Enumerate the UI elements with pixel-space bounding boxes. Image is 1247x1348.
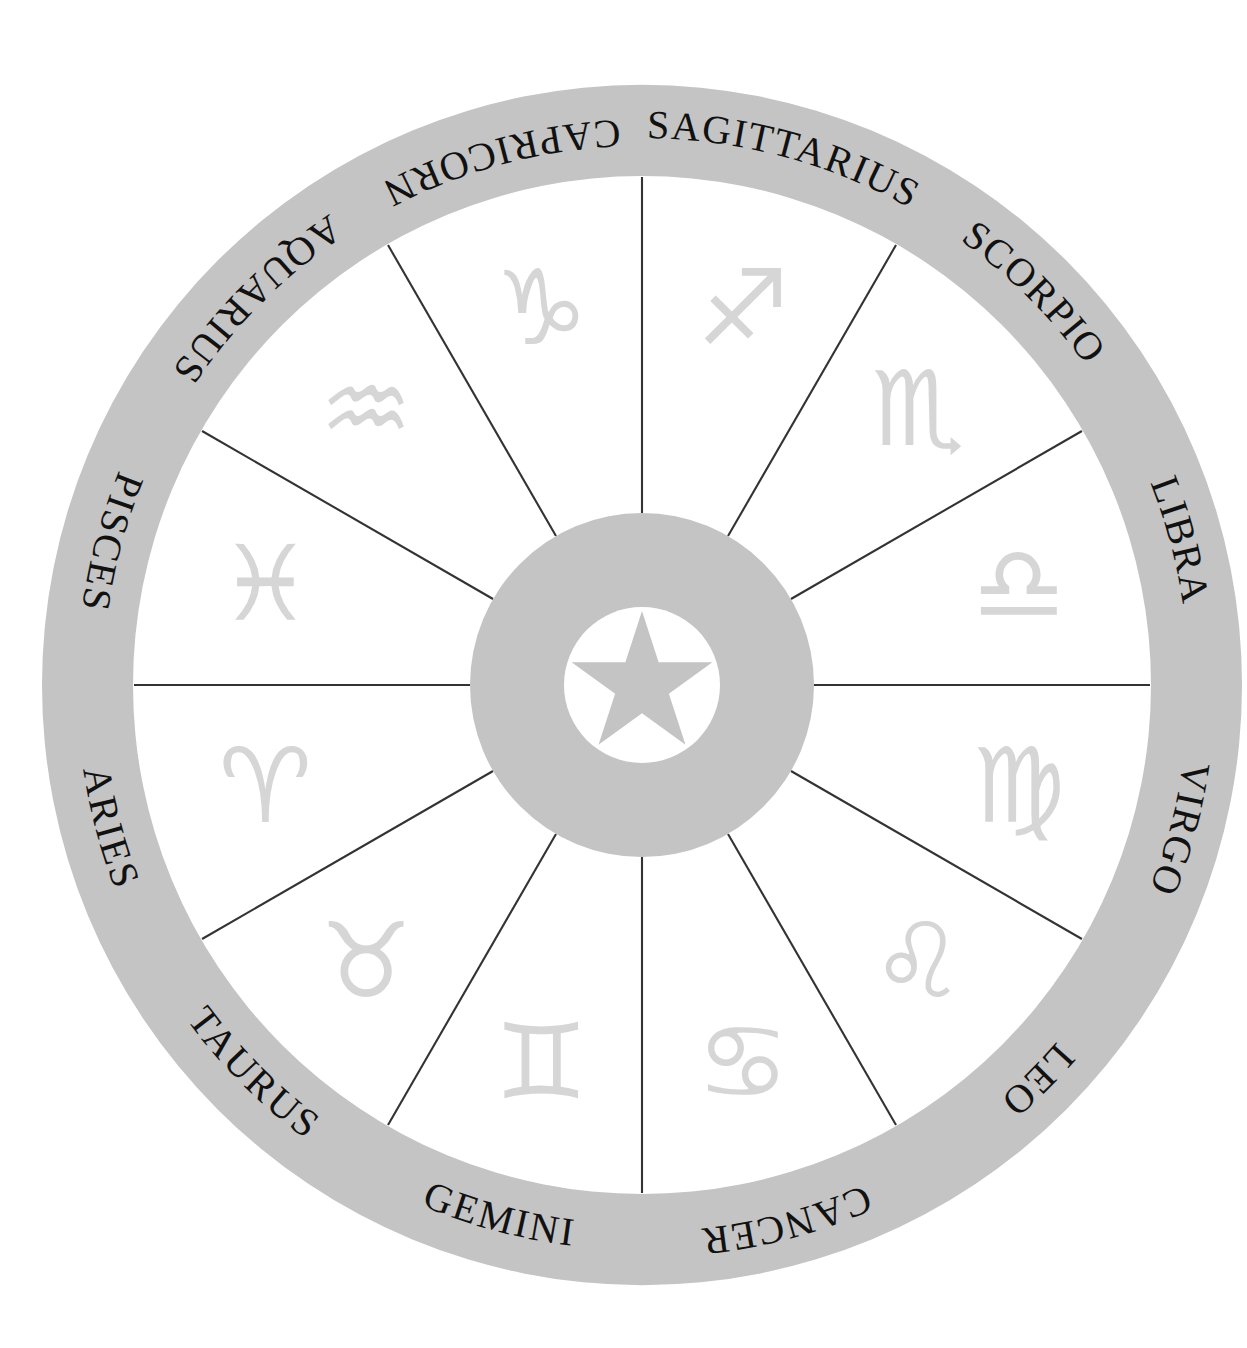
- zodiac-glyph-leo: ♌: [871, 900, 964, 1022]
- zodiac-glyph-taurus: ♉: [320, 900, 413, 1022]
- center-hub-layer: [470, 513, 814, 857]
- zodiac-glyph-pisces: ♓: [219, 523, 312, 645]
- zodiac-glyph-scorpio: ♏: [871, 348, 964, 470]
- zodiac-glyph-virgo: ♍: [972, 725, 1065, 847]
- zodiac-glyph-libra: ♎: [972, 523, 1065, 645]
- zodiac-glyph-gemini: ♊: [494, 1001, 587, 1123]
- zodiac-glyph-aries: ♈: [219, 725, 312, 847]
- zodiac-wheel-svg: ♐♏♎♍♌♋♊♉♈♓♒♑ SAGITTARIUSSCORPIOLIBRAVIRG…: [0, 0, 1247, 1348]
- zodiac-glyph-cancer: ♋: [696, 1001, 789, 1123]
- zodiac-glyph-aquarius: ♒: [320, 348, 413, 470]
- zodiac-wheel-diagram: ♐♏♎♍♌♋♊♉♈♓♒♑ SAGITTARIUSSCORPIOLIBRAVIRG…: [0, 0, 1247, 1348]
- zodiac-glyph-capricorn: ♑: [494, 247, 587, 369]
- zodiac-glyph-sagittarius: ♐: [696, 247, 789, 369]
